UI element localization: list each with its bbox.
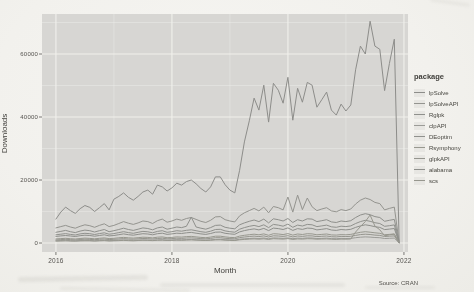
- y-tick-label: 20000: [0, 177, 38, 184]
- y-tick-label: 60000: [0, 51, 38, 58]
- x-tick-label: 2022: [389, 257, 419, 264]
- legend-label: lpSolveAPI: [429, 101, 458, 107]
- legend-title: package: [414, 72, 474, 81]
- legend-item: clpAPI: [414, 120, 474, 131]
- legend-key-line-icon: [414, 100, 425, 108]
- scanned-page: 0200004000060000 2016201820202022 Downlo…: [0, 0, 474, 292]
- legend-label: alabama: [429, 167, 452, 173]
- legend-key-line-icon: [414, 155, 425, 163]
- legend-key-line-icon: [414, 111, 425, 119]
- legend-item: Rsymphony: [414, 142, 474, 153]
- legend-key-line-icon: [414, 144, 425, 152]
- legend: package lpSolvelpSolveAPIRglpkclpAPIDEop…: [414, 72, 474, 186]
- legend-key-line-icon: [414, 166, 425, 174]
- legend-label: DEoptim: [429, 134, 452, 140]
- legend-label: glpkAPI: [429, 156, 450, 162]
- source-caption: Source: CRAN: [298, 280, 418, 286]
- legend-items: lpSolvelpSolveAPIRglpkclpAPIDEoptimRsymp…: [414, 87, 474, 186]
- legend-key-line-icon: [414, 177, 425, 185]
- x-tick-label: 2018: [157, 257, 187, 264]
- legend-label: clpAPI: [429, 123, 446, 129]
- legend-item: lpSolve: [414, 87, 474, 98]
- y-tick-label: 0: [0, 240, 38, 247]
- legend-key-line-icon: [414, 133, 425, 141]
- y-axis-title: Downloads: [0, 104, 9, 164]
- legend-label: Rsymphony: [429, 145, 461, 151]
- legend-item: lpSolveAPI: [414, 98, 474, 109]
- legend-key-line-icon: [414, 89, 425, 97]
- legend-label: scs: [429, 178, 438, 184]
- panel-background: [42, 14, 408, 252]
- legend-label: lpSolve: [429, 90, 449, 96]
- x-tick-label: 2020: [273, 257, 303, 264]
- cran-downloads-chart: 0200004000060000 2016201820202022 Downlo…: [0, 0, 474, 292]
- legend-item: DEoptim: [414, 131, 474, 142]
- plot-panel: [0, 0, 474, 292]
- legend-item: scs: [414, 175, 474, 186]
- legend-key-line-icon: [414, 122, 425, 130]
- legend-item: glpkAPI: [414, 153, 474, 164]
- legend-item: Rglpk: [414, 109, 474, 120]
- legend-item: alabama: [414, 164, 474, 175]
- x-axis-title: Month: [185, 266, 265, 275]
- x-tick-label: 2016: [41, 257, 71, 264]
- legend-label: Rglpk: [429, 112, 444, 118]
